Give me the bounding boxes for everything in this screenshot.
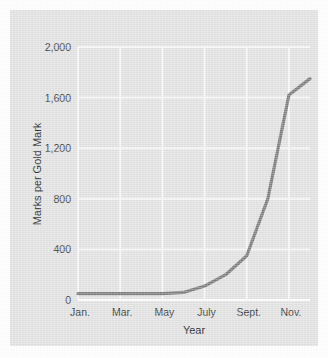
y-tick-label: 1,600 [45, 92, 71, 104]
chart-figure: 04008001,2001,6002,000 Jan.Mar.MayJulySe… [0, 0, 328, 358]
x-axis-title: Year [183, 324, 206, 336]
y-tick-label: 2,000 [45, 41, 71, 53]
y-tick-label: 0 [65, 294, 71, 306]
y-tick-label: 400 [53, 243, 71, 255]
x-tick-label: Sept. [236, 306, 261, 318]
x-tick-label: Mar. [112, 306, 132, 318]
x-axis-tick-labels: Jan.Mar.MayJulySept.Nov. [70, 306, 301, 318]
plot-area-background [78, 47, 310, 300]
x-tick-label: May [154, 306, 175, 318]
y-axis-tick-labels: 04008001,2001,6002,000 [45, 41, 71, 306]
x-tick-label: Jan. [70, 306, 90, 318]
line-chart: 04008001,2001,6002,000 Jan.Mar.MayJulySe… [0, 0, 328, 358]
x-tick-label: July [197, 306, 216, 318]
y-tick-label: 800 [53, 193, 71, 205]
y-axis-title: Marks per Gold Mark [31, 122, 43, 225]
x-tick-label: Nov. [281, 306, 302, 318]
y-tick-label: 1,200 [45, 142, 71, 154]
